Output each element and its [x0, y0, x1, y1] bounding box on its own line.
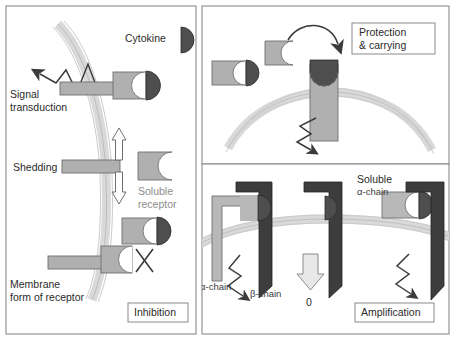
zero-signal-label: 0	[306, 296, 312, 308]
tag-inhibition: Inhibition	[128, 303, 188, 322]
soluble-alpha-label-line2: α-chain	[357, 186, 388, 197]
membrane-form-label-line2: form of receptor	[10, 291, 85, 303]
tag-amplification-label: Amplification	[361, 306, 421, 318]
shedding-receptor-body	[62, 160, 120, 173]
membrane-receptor-protection	[310, 60, 338, 141]
beta-chain-label: β-chain	[250, 288, 281, 299]
diagram-svg: Signal transduction Cytokine Shedding	[0, 0, 455, 343]
signal-transduction-label-line2: transduction	[10, 101, 67, 113]
loaded-soluble-complex	[212, 60, 259, 86]
shedding-receptor	[62, 160, 120, 173]
receptor-intracellular-tail	[60, 82, 118, 95]
membrane-form-label-line1: Membrane	[10, 278, 60, 290]
figure-canvas: Signal transduction Cytokine Shedding	[0, 0, 455, 343]
shedding-label: Shedding	[13, 161, 58, 173]
tag-protection: Protection & carrying	[352, 23, 435, 54]
soluble-receptor-label-line1: Soluble	[138, 185, 173, 197]
cytokine-label: Cytokine	[125, 32, 166, 44]
tag-inhibition-label: Inhibition	[134, 306, 176, 318]
alpha-chain-label: α-chain	[200, 281, 231, 292]
tag-protection-label-line1: Protection	[359, 26, 406, 38]
blocked-receptor-tail	[48, 256, 106, 269]
tag-amplification: Amplification	[355, 303, 434, 322]
soluble-receptor-label-line2: receptor	[138, 198, 177, 210]
tag-protection-label-line2: & carrying	[359, 39, 406, 51]
soluble-alpha-label-line1: Soluble	[357, 173, 392, 185]
soluble-receptor-cytokine-complex	[122, 217, 171, 245]
signal-transduction-label-line1: Signal	[10, 88, 39, 100]
